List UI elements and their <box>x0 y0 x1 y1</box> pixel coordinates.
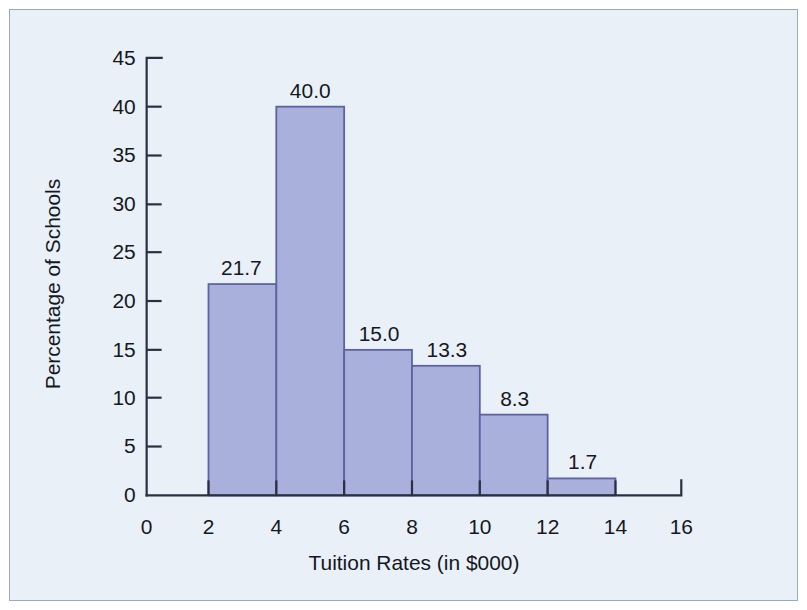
bar-value-label-2: 15.0 <box>359 322 400 345</box>
y-tick-label-5: 5 <box>124 435 136 458</box>
chart-frame: 45 40 35 30 25 20 15 10 5 0 0 2 4 6 8 10… <box>9 9 798 601</box>
y-tick-label-10: 10 <box>112 386 135 409</box>
bar-bin-6-8 <box>344 350 412 496</box>
bar-bin-12-14 <box>548 478 616 495</box>
y-axis-title: Percentage of Schools <box>41 179 64 389</box>
x-tick-label-12: 12 <box>536 515 559 538</box>
bar-bin-10-12 <box>480 415 548 496</box>
x-tick-label-0: 0 <box>141 515 153 538</box>
x-tick-label-8: 8 <box>406 515 418 538</box>
bar-value-label-4: 8.3 <box>500 387 529 410</box>
x-axis-title: Tuition Rates (in $000) <box>308 551 519 574</box>
y-tick-label-30: 30 <box>112 192 135 215</box>
y-tick-label-35: 35 <box>112 143 135 166</box>
bar-value-label-0: 21.7 <box>221 256 262 279</box>
bar-value-label-3: 13.3 <box>427 338 468 361</box>
chart-page: 45 40 35 30 25 20 15 10 5 0 0 2 4 6 8 10… <box>0 0 807 610</box>
x-tick-label-14: 14 <box>604 515 628 538</box>
x-tick-label-2: 2 <box>203 515 215 538</box>
bar-bin-4-6 <box>276 107 344 496</box>
x-tick-label-10: 10 <box>468 515 491 538</box>
bar-value-label-5: 1.7 <box>568 450 597 473</box>
x-tick-label-6: 6 <box>338 515 350 538</box>
y-tick-label-20: 20 <box>112 289 135 312</box>
bar-value-label-1: 40.0 <box>290 79 331 102</box>
x-tick-label-16: 16 <box>670 515 693 538</box>
y-tick-label-15: 15 <box>112 338 135 361</box>
histogram-figure: 45 40 35 30 25 20 15 10 5 0 0 2 4 6 8 10… <box>10 10 797 600</box>
y-tick-label-45: 45 <box>112 46 135 69</box>
y-tick-label-25: 25 <box>112 240 135 263</box>
y-tick-label-40: 40 <box>112 95 135 118</box>
y-tick-label-0: 0 <box>124 483 136 506</box>
x-tick-label-4: 4 <box>271 515 283 538</box>
bar-bin-8-10 <box>412 366 480 496</box>
bar-bin-2-4 <box>208 284 276 495</box>
